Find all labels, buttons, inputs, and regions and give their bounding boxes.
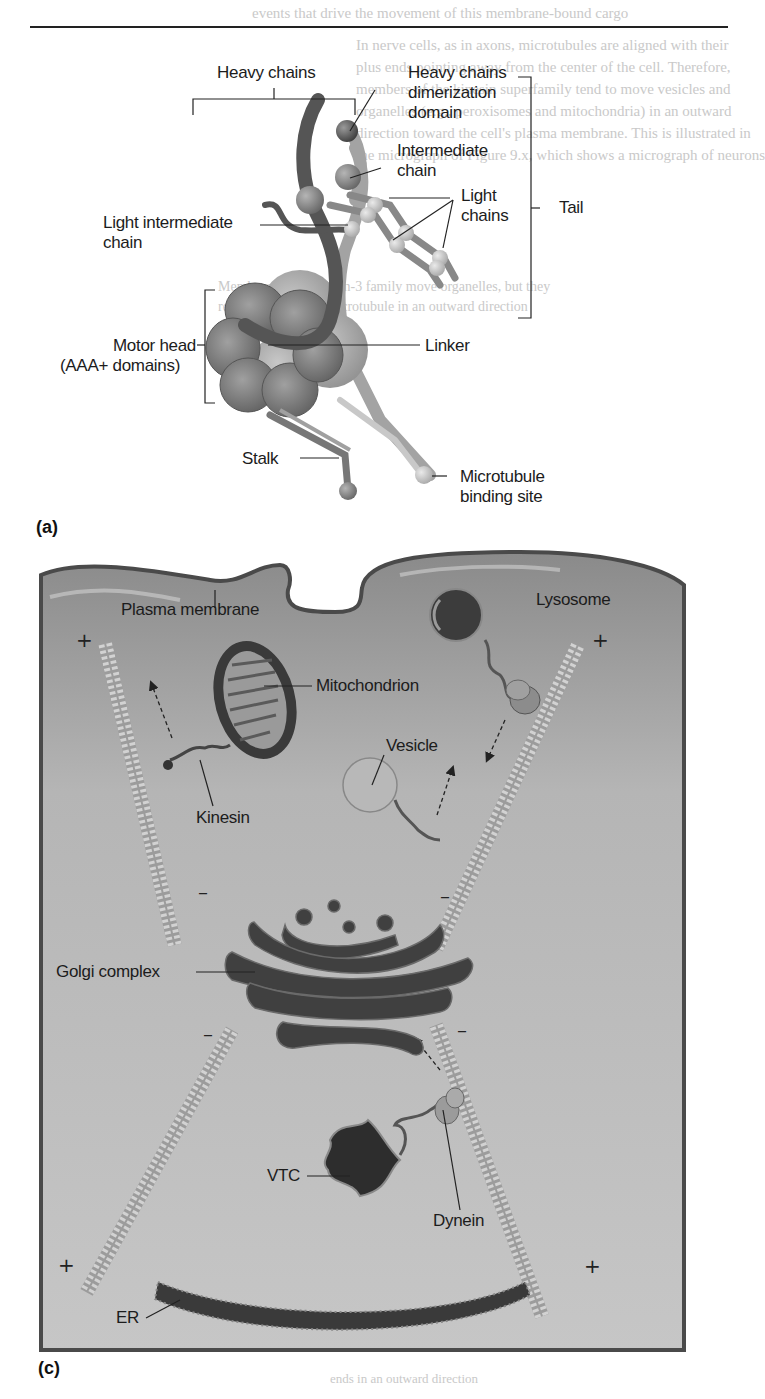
label-vtc: VTC xyxy=(267,1166,300,1185)
label-kinesin: Kinesin xyxy=(196,808,250,827)
mt-binding-ball-dark xyxy=(339,482,357,500)
panel-label-a: (a) xyxy=(36,517,58,538)
label-light-chains-1: Light xyxy=(461,186,496,205)
label-heavy-chains: Heavy chains xyxy=(217,63,315,82)
mt-binding-ball-light xyxy=(415,466,433,484)
label-light-intermediate-chain-1: Light intermediate xyxy=(103,213,233,232)
label-vesicle: Vesicle xyxy=(386,736,438,755)
label-light-intermediate-chain-2: chain xyxy=(103,233,142,252)
label-mitochondrion: Mitochondrion xyxy=(316,676,419,695)
label-dimerization-domain-1: Heavy chains xyxy=(408,63,506,82)
label-golgi-complex: Golgi complex xyxy=(56,962,160,981)
label-mt-binding-site-1: Microtubule xyxy=(460,467,545,486)
label-stalk: Stalk xyxy=(242,449,278,468)
label-dimerization-domain-2: dimerization xyxy=(408,83,496,102)
label-er: ER xyxy=(116,1308,139,1327)
label-plasma-membrane: Plasma membrane xyxy=(121,600,259,619)
label-dimerization-domain-3: domain xyxy=(408,103,462,122)
label-motor-head-2: (AAA+ domains) xyxy=(30,356,180,375)
minus-end-sign: – xyxy=(440,884,450,908)
label-motor-head-1: Motor head xyxy=(60,336,196,355)
panel-label-c: (c) xyxy=(38,1358,60,1379)
label-intermediate-chain-1: Intermediate xyxy=(397,141,488,160)
label-light-chains-2: chains xyxy=(461,206,508,225)
plus-end-sign: + xyxy=(58,1253,75,1277)
label-mt-binding-site-2: binding site xyxy=(460,487,542,506)
minus-end-sign: – xyxy=(198,880,208,904)
plus-end-sign: + xyxy=(76,628,93,652)
label-dynein: Dynein xyxy=(433,1211,484,1230)
plus-end-sign: + xyxy=(592,628,609,652)
label-intermediate-chain-2: chain xyxy=(397,161,436,180)
dynein-structure xyxy=(206,100,455,500)
plus-end-sign: + xyxy=(584,1254,601,1278)
minus-end-sign: – xyxy=(203,1022,213,1046)
label-linker: Linker xyxy=(425,336,470,355)
label-tail: Tail xyxy=(559,198,583,217)
minus-end-sign: – xyxy=(457,1018,467,1042)
label-lysosome: Lysosome xyxy=(536,590,610,609)
